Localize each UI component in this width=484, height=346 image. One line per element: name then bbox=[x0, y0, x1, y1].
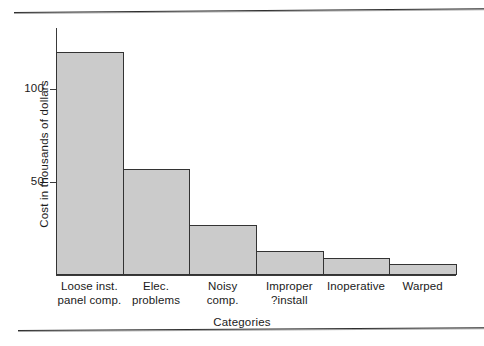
bar[interactable] bbox=[389, 264, 457, 275]
bar[interactable] bbox=[56, 52, 124, 275]
bar-group bbox=[56, 28, 456, 275]
x-tick-label-group: Loose inst.panel comp.Elec.problemsNoisy… bbox=[56, 279, 456, 319]
y-tick-label: 100 bbox=[0, 83, 44, 95]
bar[interactable] bbox=[323, 258, 391, 275]
bar[interactable] bbox=[256, 251, 324, 275]
x-axis-title: Categories bbox=[0, 316, 484, 328]
y-tick-50: 50 bbox=[0, 182, 62, 183]
figure-page: Cost in thousands of dollars 50100 Loose… bbox=[0, 0, 484, 346]
y-tick-label: 50 bbox=[0, 176, 44, 188]
bar-chart: Cost in thousands of dollars 50100 Loose… bbox=[0, 0, 484, 346]
x-tick-label: Warped bbox=[381, 279, 464, 293]
x-axis-line bbox=[56, 275, 456, 276]
bar[interactable] bbox=[123, 169, 191, 275]
bar[interactable] bbox=[189, 225, 257, 275]
y-tick-100: 100 bbox=[0, 89, 62, 90]
